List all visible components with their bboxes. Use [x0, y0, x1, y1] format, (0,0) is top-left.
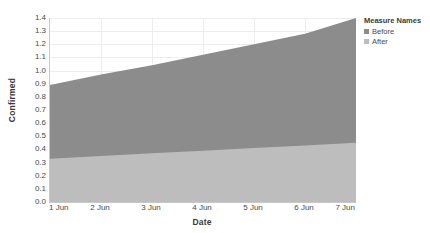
x-tick-label: 6 Jun: [294, 204, 314, 212]
y-tick-label: 0.4: [35, 145, 46, 153]
y-axis-title-label: Confirmed: [7, 78, 17, 122]
y-tick-label: 1.3: [35, 27, 46, 35]
legend: Measure Names BeforeAfter: [364, 16, 428, 47]
x-tick-label: 7 Jun: [335, 204, 355, 212]
y-tick-label: 0.5: [35, 132, 46, 140]
legend-swatch-icon: [364, 39, 369, 44]
legend-title: Measure Names: [364, 16, 428, 25]
legend-items: BeforeAfter: [364, 28, 428, 45]
x-axis-ticks: 1 Jun2 Jun3 Jun4 Jun5 Jun6 Jun7 Jun: [49, 204, 355, 216]
legend-item-label: After: [372, 38, 388, 46]
y-tick-label: 1.1: [35, 53, 46, 61]
y-tick-label: 1.2: [35, 40, 46, 48]
y-tick-label: 1.4: [35, 14, 46, 22]
y-tick-label: 1.0: [35, 67, 46, 75]
y-tick-label: 0.8: [35, 93, 46, 101]
y-tick-label: 0.1: [35, 185, 46, 193]
x-tick-label: 2 Jun: [90, 204, 110, 212]
plot-area: [49, 18, 356, 203]
legend-swatch-icon: [364, 29, 369, 34]
x-tick-label: 5 Jun: [243, 204, 263, 212]
area-chart: Confirmed 0.00.10.20.30.40.50.60.70.80.9…: [0, 0, 430, 233]
x-axis-title: Date: [49, 217, 355, 227]
legend-item[interactable]: After: [364, 38, 428, 46]
x-tick-label: 4 Jun: [192, 204, 212, 212]
y-axis-ticks: 0.00.10.20.30.40.50.60.70.80.91.01.11.21…: [22, 18, 48, 202]
y-tick-label: 0.9: [35, 80, 46, 88]
y-tick-label: 0.7: [35, 106, 46, 114]
y-tick-label: 0.6: [35, 119, 46, 127]
y-tick-label: 0.0: [35, 198, 46, 206]
series-layer: [50, 18, 356, 202]
y-axis-title: Confirmed: [4, 0, 20, 200]
x-tick-label: 3 Jun: [141, 204, 161, 212]
x-tick-label: 1 Jun: [49, 204, 69, 212]
y-tick-label: 0.2: [35, 172, 46, 180]
y-tick-label: 0.3: [35, 159, 46, 167]
legend-item[interactable]: Before: [364, 28, 428, 36]
legend-item-label: Before: [372, 28, 394, 36]
